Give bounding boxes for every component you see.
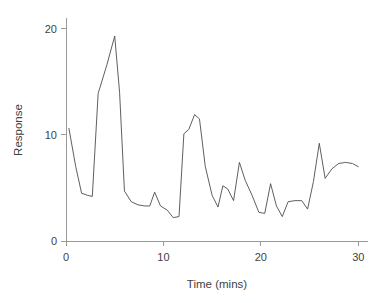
x-tick-label: 30 bbox=[352, 251, 364, 263]
x-axis-tick-labels: 0102030 bbox=[63, 251, 364, 263]
x-tick-label: 10 bbox=[157, 251, 169, 263]
y-tick-label: 20 bbox=[45, 23, 57, 35]
x-axis-ticks bbox=[66, 241, 358, 246]
y-tick-label: 0 bbox=[51, 235, 57, 247]
response-series-line bbox=[69, 36, 358, 218]
axes-group bbox=[66, 18, 368, 241]
y-axis-tick-labels: 01020 bbox=[45, 23, 57, 247]
x-tick-label: 0 bbox=[63, 251, 69, 263]
y-axis-ticks bbox=[61, 29, 66, 241]
line-chart-canvas: 01020 0102030 Time (mins) Response bbox=[0, 0, 388, 303]
x-axis-title: Time (mins) bbox=[187, 278, 247, 290]
chart-figure: 01020 0102030 Time (mins) Response bbox=[0, 0, 388, 303]
y-tick-label: 10 bbox=[45, 129, 57, 141]
y-axis-title: Response bbox=[12, 104, 24, 156]
x-tick-label: 20 bbox=[255, 251, 267, 263]
